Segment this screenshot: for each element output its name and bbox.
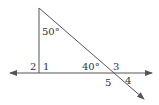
angle-label-4: 4 <box>125 75 131 86</box>
angle-label-3: 3 <box>113 61 119 72</box>
angle-label-5: 5 <box>105 77 111 88</box>
geometry-diagram: 50° 40° 1 2 3 4 5 <box>0 0 159 105</box>
angle-label-2: 2 <box>30 61 36 72</box>
angle-label-40: 40° <box>82 61 100 72</box>
angle-label-50: 50° <box>42 26 60 37</box>
angle-label-1: 1 <box>43 61 49 72</box>
